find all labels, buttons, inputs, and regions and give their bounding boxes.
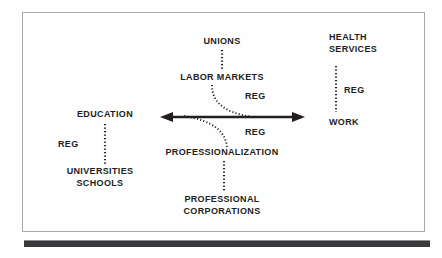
edge-label-reg-above-arrow: REG xyxy=(245,91,266,101)
edge-label-reg-left: REG xyxy=(58,139,79,149)
node-universities-schools: UNIVERSITIES SCHOOLS xyxy=(67,166,134,189)
edge-label-reg-right: REG xyxy=(344,85,365,95)
edge-axis-to-professionalization-curve xyxy=(184,116,227,148)
arrowhead-left-icon xyxy=(160,112,173,122)
node-professional-corporations-line2: CORPORATIONS xyxy=(183,206,260,218)
node-professional-corporations-line1: PROFESSIONAL xyxy=(183,194,260,206)
node-professionalization: PROFESSIONALIZATION xyxy=(166,147,279,159)
node-labor-markets: LABOR MARKETS xyxy=(180,72,264,84)
edge-labor-markets-to-axis-curve xyxy=(212,85,252,117)
figure-canvas: UNIONS LABOR MARKETS PROFESSIONALIZATION… xyxy=(0,0,442,258)
node-work: WORK xyxy=(329,117,359,129)
node-health-services-line2: SERVICES xyxy=(329,44,377,56)
arrowhead-right-icon xyxy=(292,112,305,122)
bottom-rule-bar xyxy=(24,240,430,247)
node-unions: UNIONS xyxy=(203,36,240,48)
node-health-services: HEALTH SERVICES xyxy=(329,32,377,55)
node-health-services-line1: HEALTH xyxy=(329,32,377,44)
node-universities-label: UNIVERSITIES xyxy=(67,166,134,178)
node-schools-label: SCHOOLS xyxy=(67,178,134,190)
edge-label-reg-below-arrow: REG xyxy=(245,127,266,137)
node-education: EDUCATION xyxy=(77,109,133,121)
node-professional-corporations: PROFESSIONAL CORPORATIONS xyxy=(183,194,260,217)
